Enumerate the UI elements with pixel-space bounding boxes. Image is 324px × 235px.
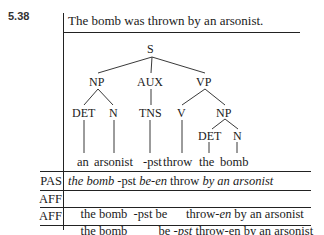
row-tag: AFF <box>38 209 62 224</box>
row-tag: AFF <box>38 192 62 207</box>
row-tag: PAS <box>38 174 62 189</box>
leaf-pst: -pst <box>143 155 162 170</box>
row-seg: -pst <box>114 174 139 188</box>
node-v: V <box>177 106 186 121</box>
node-n-inner: N <box>233 129 242 144</box>
row-divider-top <box>40 171 311 172</box>
row-divider-bottom <box>40 225 311 226</box>
row-seg: throw <box>167 174 202 188</box>
row-seg: by an arsonist <box>202 174 273 188</box>
node-det-inner: DET <box>198 129 221 144</box>
row-divider <box>40 207 311 208</box>
row-divider <box>40 190 311 191</box>
leaf-throw: throw <box>163 155 192 170</box>
leaf-arsonist: arsonist <box>94 155 133 170</box>
node-det: DET <box>72 106 95 121</box>
node-n: N <box>109 106 118 121</box>
row-seg: the bomb <box>68 174 114 188</box>
node-vp: VP <box>196 75 211 90</box>
leaf-bomb: bomb <box>220 155 248 170</box>
node-tns: TNS <box>139 106 162 121</box>
node-aux: AUX <box>137 75 163 90</box>
node-np-object: NP <box>216 106 231 121</box>
node-np: NP <box>89 75 104 90</box>
leaf-the: the <box>199 155 214 170</box>
node-s: S <box>147 42 154 57</box>
leaf-an: an <box>77 155 89 170</box>
row-seg: be-en <box>139 174 167 188</box>
